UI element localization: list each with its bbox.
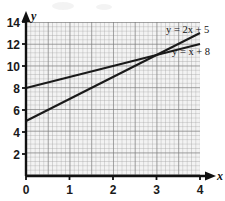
- y-tick-label-6: 6: [0, 105, 20, 117]
- x-axis-label: x: [217, 170, 223, 182]
- x-axis-arrowhead: [205, 172, 216, 181]
- y-axis-label: y: [31, 10, 36, 22]
- equation-label-line2: y = x + 8: [172, 47, 210, 58]
- x-tick-label-3: 3: [149, 184, 165, 196]
- x-tick-label-0: 0: [18, 184, 34, 196]
- y-tick-label-10: 10: [0, 61, 20, 73]
- x-tick-label-4: 4: [192, 184, 208, 196]
- y-tick-label-14: 14: [0, 17, 20, 29]
- equation-label-line1: y = 2x + 5: [166, 25, 209, 36]
- y-tick-label-4: 4: [0, 127, 20, 139]
- x-tick-label-1: 1: [62, 184, 78, 196]
- y-tick-label-2: 2: [0, 149, 20, 161]
- y-tick-label-8: 8: [0, 83, 20, 95]
- x-tick-label-2: 2: [105, 184, 121, 196]
- y-tick-label-12: 12: [0, 39, 20, 51]
- y-axis-arrowhead: [22, 11, 31, 22]
- graph-figure: 14 12 10 8 6 4 2 0 1 2 3 4 y x y = 2x + …: [0, 0, 225, 201]
